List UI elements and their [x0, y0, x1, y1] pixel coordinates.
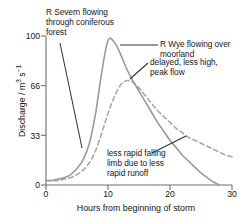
x-tick-label-0: 0	[36, 189, 56, 199]
leader-line-delayed	[130, 63, 148, 79]
y-axis-title-exponent-3: 3	[15, 79, 22, 83]
leader-line-severn	[60, 43, 82, 148]
y-axis-title-head: Discharge / m	[17, 83, 27, 137]
annotation-r-severn: R Severn flowing through coniferous fore…	[46, 7, 138, 38]
y-axis-title-mid: s	[17, 72, 27, 79]
y-axis-title-exponent-minus1: −1	[15, 65, 22, 72]
annotation-falling-limb: less rapid falling limb due to less rapi…	[107, 148, 193, 179]
hydrograph-figure: 100 66 33 0 0 10 20 30 Discharge / m3 s−…	[0, 0, 242, 224]
annotation-delayed-peak: delayed, less high, peak flow	[150, 57, 240, 77]
y-axis-title: Discharge / m3 s−1	[17, 33, 27, 169]
x-axis-title: Hours from beginning of storm	[36, 203, 236, 213]
x-axis-ticks	[46, 185, 232, 190]
x-tick-label-20: 20	[160, 189, 180, 199]
x-tick-label-10: 10	[98, 189, 118, 199]
y-axis-ticks	[41, 36, 46, 185]
x-tick-label-30: 30	[222, 189, 242, 199]
